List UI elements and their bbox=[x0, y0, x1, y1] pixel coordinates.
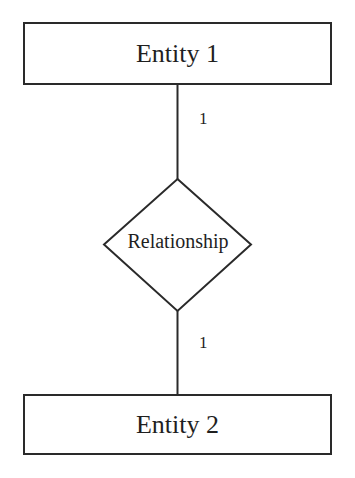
entity-1-box[interactable]: Entity 1 bbox=[23, 22, 332, 85]
er-diagram-canvas: Entity 1 1 Relationship 1 Entity 2 bbox=[0, 0, 355, 478]
entity-1-label: Entity 1 bbox=[136, 41, 219, 67]
entity-2-box[interactable]: Entity 2 bbox=[23, 394, 332, 455]
relationship-label: Relationship bbox=[104, 231, 252, 251]
entity-2-label: Entity 2 bbox=[136, 412, 219, 438]
cardinality-bottom-label: 1 bbox=[199, 334, 208, 351]
cardinality-top-label: 1 bbox=[199, 110, 208, 127]
